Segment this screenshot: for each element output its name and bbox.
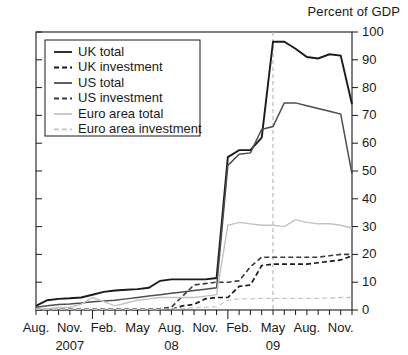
y-axis-tick-label: 0 xyxy=(362,302,369,317)
x-axis-tick-label: Nov. xyxy=(328,320,354,335)
x-axis-tick-label: May xyxy=(261,320,286,335)
series-line-us-investment xyxy=(36,254,352,309)
x-axis-year-label: 2007 xyxy=(55,338,84,353)
x-axis-tick-label: Aug. xyxy=(293,320,320,335)
y-axis-tick-label: 40 xyxy=(362,191,376,206)
x-axis-tick-label: Nov. xyxy=(57,320,83,335)
x-axis-tick-label: Feb. xyxy=(226,320,252,335)
x-axis-tick-label: Feb. xyxy=(91,320,117,335)
y-axis-tick-label: 90 xyxy=(362,52,376,67)
series-line-euro-area-total xyxy=(36,220,352,310)
y-axis-tick-label: 10 xyxy=(362,274,376,289)
legend-label-uk-investment: UK investment xyxy=(78,59,163,74)
series-line-uk-investment xyxy=(36,256,352,310)
chart-container: Percent of GDP 0102030405060708090100Aug… xyxy=(0,0,408,355)
y-axis-tick-label: 50 xyxy=(362,163,376,178)
x-axis-year-label: 09 xyxy=(266,338,280,353)
x-axis-tick-label: Nov. xyxy=(192,320,218,335)
y-axis-tick-label: 30 xyxy=(362,219,376,234)
legend-label-euro-area-total: Euro area total xyxy=(78,106,163,121)
x-axis-tick-label: May xyxy=(125,320,150,335)
y-axis-tick-label: 100 xyxy=(362,24,384,39)
y-axis-tick-label: 70 xyxy=(362,107,376,122)
y-axis-tick-label: 80 xyxy=(362,80,376,95)
line-chart-plot: 0102030405060708090100Aug.Nov.Feb.MayAug… xyxy=(0,0,408,355)
y-axis-tick-label: 60 xyxy=(362,135,376,150)
x-axis-tick-label: Aug. xyxy=(158,320,185,335)
x-axis-tick-label: Aug. xyxy=(23,320,50,335)
x-axis-year-label: 08 xyxy=(164,338,178,353)
legend-label-euro-area-investment: Euro area investment xyxy=(78,121,202,136)
y-axis-tick-label: 20 xyxy=(362,246,376,261)
legend-label-us-investment: US investment xyxy=(78,90,163,105)
legend-label-uk-total: UK total xyxy=(78,44,124,59)
legend-label-us-total: US total xyxy=(78,75,124,90)
